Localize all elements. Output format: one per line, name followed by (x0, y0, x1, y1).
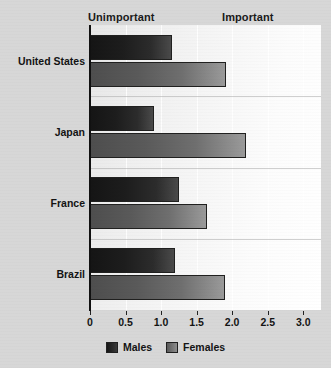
tickmark-1.5 (197, 311, 198, 315)
legend-item-males[interactable]: Males (106, 341, 152, 353)
tickmark-2.5 (268, 311, 269, 315)
tickmark-1.0 (161, 311, 162, 315)
legend-item-females[interactable]: Females (166, 341, 225, 353)
tick-label-0: 0 (87, 316, 93, 328)
tick-label-3.0: 3.0 (296, 316, 311, 328)
bar-france-males (90, 177, 179, 202)
annotation-unimportant: Unimportant (88, 11, 154, 23)
category-label-united-states: United States (18, 55, 85, 67)
y-axis-line (89, 25, 91, 311)
bar-france-females (90, 204, 207, 229)
group-separator (90, 96, 321, 97)
chart-legend: MalesFemales (0, 341, 331, 353)
bar-japan-females (90, 133, 246, 158)
group-separator (90, 168, 321, 169)
tickmark-3.0 (303, 311, 304, 315)
bar-united-states-males (90, 35, 172, 60)
group-separator (90, 239, 321, 240)
legend-label-males: Males (123, 341, 152, 353)
annotation-important: Important (222, 11, 274, 23)
tick-label-1.0: 1.0 (154, 316, 169, 328)
tickmark-0.5 (126, 311, 127, 315)
bar-brazil-females (90, 275, 225, 300)
legend-label-females: Females (183, 341, 225, 353)
tick-label-2.5: 2.5 (260, 316, 275, 328)
bar-brazil-males (90, 248, 175, 273)
category-label-france: France (51, 197, 85, 209)
legend-swatch-females (166, 342, 178, 353)
tick-label-2.0: 2.0 (225, 316, 240, 328)
chart-container: Unimportant Important United StatesJapan… (0, 0, 331, 368)
category-label-japan: Japan (55, 126, 85, 138)
tickmark-2.0 (232, 311, 233, 315)
tick-label-1.5: 1.5 (189, 316, 204, 328)
tick-label-0.5: 0.5 (118, 316, 133, 328)
tickmark-0 (90, 311, 91, 315)
plot-area (90, 25, 321, 310)
bar-united-states-females (90, 62, 226, 87)
legend-swatch-males (106, 342, 118, 353)
category-label-brazil: Brazil (56, 268, 85, 280)
bar-japan-males (90, 106, 154, 131)
